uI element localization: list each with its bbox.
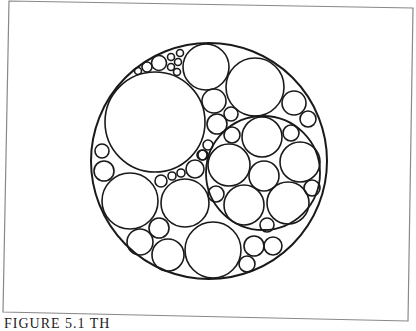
packed-circle bbox=[300, 111, 316, 127]
packed-circle bbox=[280, 142, 320, 182]
packed-circle bbox=[242, 117, 282, 157]
packed-circle bbox=[244, 236, 264, 256]
packed-circle bbox=[161, 179, 209, 227]
packed-circle bbox=[175, 59, 182, 66]
packed-circle bbox=[177, 169, 185, 177]
packed-circle bbox=[168, 64, 175, 71]
packed-circle bbox=[208, 144, 250, 186]
packed-circle bbox=[186, 160, 204, 178]
packed-circle bbox=[142, 62, 152, 72]
packed-circle bbox=[149, 218, 169, 238]
packed-circle bbox=[94, 161, 114, 181]
packed-circle bbox=[168, 54, 175, 61]
packed-circle bbox=[174, 69, 181, 76]
packed-circle bbox=[185, 222, 241, 278]
packed-circles bbox=[91, 43, 327, 279]
packed-circle bbox=[183, 44, 229, 90]
packed-circle bbox=[283, 125, 299, 141]
packed-circle bbox=[152, 56, 167, 71]
packed-circle bbox=[155, 175, 167, 187]
packed-circle bbox=[95, 144, 109, 158]
packed-circle bbox=[168, 172, 176, 180]
packed-circle bbox=[224, 127, 240, 143]
packed-circle bbox=[203, 140, 213, 150]
packed-circle bbox=[224, 185, 264, 225]
figure-caption: FIGURE 5.1 TH bbox=[4, 317, 110, 331]
packed-circle bbox=[239, 256, 255, 272]
packed-circle bbox=[102, 173, 158, 229]
packed-circle bbox=[267, 182, 309, 224]
packed-circle bbox=[177, 50, 184, 57]
packed-circle bbox=[127, 229, 153, 255]
packed-circle bbox=[105, 72, 205, 172]
packed-circle bbox=[202, 89, 226, 113]
packed-circle bbox=[135, 68, 142, 75]
packed-circle bbox=[152, 239, 184, 271]
packed-circle bbox=[207, 114, 227, 134]
packed-circle bbox=[282, 91, 306, 115]
packed-circle bbox=[264, 237, 282, 255]
